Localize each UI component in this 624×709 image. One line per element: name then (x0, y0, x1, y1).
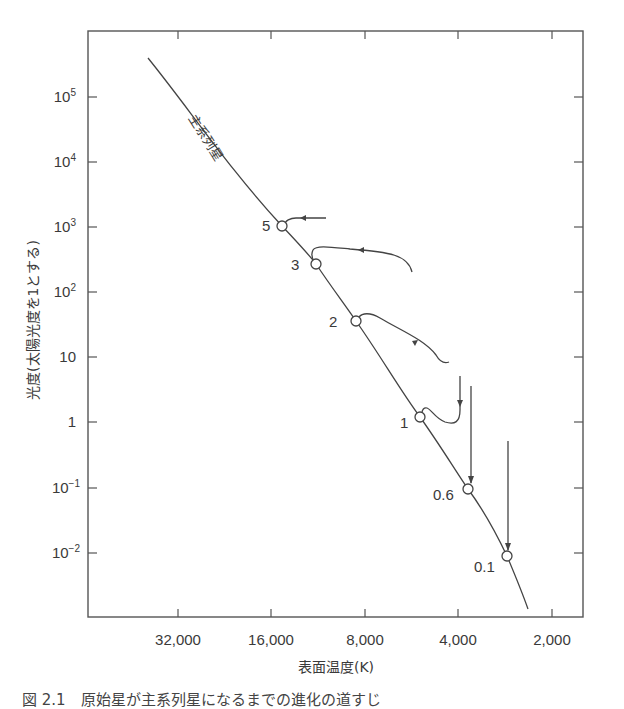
y-tick-labels: 105 104 103 102 10 1 10−1 10−2 (52, 87, 81, 561)
marker-mass-5 (277, 221, 287, 231)
y-tick-label: 105 (54, 87, 77, 105)
mass-label: 0.6 (433, 486, 454, 503)
x-axis-title: 表面温度(K) (298, 659, 374, 675)
marker-mass-0.1 (502, 551, 512, 561)
zams-markers (277, 221, 512, 561)
y-tick-label: 10−1 (52, 478, 81, 496)
x-tick-label: 32,000 (155, 631, 201, 648)
track-mass-1 (422, 376, 460, 423)
marker-mass-3 (311, 259, 321, 269)
y-tick-label: 1 (68, 413, 76, 430)
x-tick-labels: 32,000 16,000 8,000 4,000 2,000 (155, 631, 571, 648)
y-tick-label: 103 (54, 217, 77, 235)
marker-mass-1 (415, 412, 425, 422)
y-tick-label: 10−2 (52, 543, 81, 561)
mass-label: 5 (262, 217, 270, 234)
marker-mass-2 (351, 316, 361, 326)
mass-label: 0.1 (474, 558, 495, 575)
y-tick-label: 104 (54, 152, 77, 170)
mass-label: 2 (329, 313, 337, 330)
x-tick-label: 8,000 (346, 631, 384, 648)
x-ticks (178, 31, 552, 617)
marker-mass-0.6 (463, 484, 473, 494)
figure-caption: 図 2.1 原始星が主系列星になるまでの進化の道すじ (22, 688, 381, 709)
y-tick-label: 10 (59, 348, 76, 365)
main-sequence-label: 主系列星 (185, 112, 225, 164)
x-tick-label: 4,000 (439, 631, 477, 648)
y-tick-label: 102 (54, 282, 77, 300)
y-axis-title: 光度(太陽光度を1とする) (25, 240, 41, 400)
x-tick-label: 16,000 (248, 631, 294, 648)
x-tick-label: 2,000 (533, 631, 571, 648)
track-mass-2 (359, 314, 449, 363)
mass-label: 3 (291, 256, 299, 273)
mass-label: 1 (400, 414, 408, 431)
